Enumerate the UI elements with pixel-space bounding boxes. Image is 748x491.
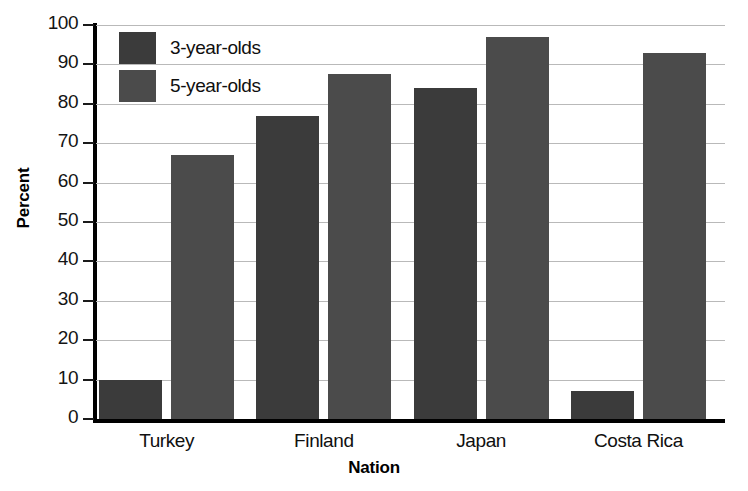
- legend-swatch: [119, 32, 156, 64]
- legend-swatch: [119, 70, 156, 102]
- bar-turkey-series-0: [99, 380, 162, 419]
- bar-finland-series-1: [328, 74, 391, 419]
- bar-japan-series-0: [414, 88, 477, 419]
- bar-japan-series-1: [486, 37, 549, 419]
- y-axis-tick-label: 70: [22, 130, 78, 152]
- y-axis-tick-label: 30: [22, 288, 78, 310]
- gridline: [96, 143, 725, 144]
- x-axis-spine: [93, 419, 725, 423]
- bar-finland-series-0: [256, 116, 319, 419]
- y-axis-tick: [83, 24, 94, 26]
- y-axis-tick: [83, 182, 94, 184]
- y-axis-tick-label: 50: [22, 209, 78, 231]
- y-axis-tick-label: 90: [22, 51, 78, 73]
- y-axis-tick-label: 0: [22, 406, 78, 428]
- y-axis-tick: [83, 260, 94, 262]
- category-label: Turkey: [87, 430, 247, 452]
- legend: 3-year-olds5-year-olds: [119, 29, 261, 105]
- bar-costa-rica-series-1: [643, 53, 706, 419]
- y-axis-tick: [83, 142, 94, 144]
- legend-item: 5-year-olds: [119, 67, 261, 105]
- category-label: Japan: [401, 430, 561, 452]
- y-axis-tick: [83, 379, 94, 381]
- y-axis-tick-label: 80: [22, 91, 78, 113]
- legend-label: 3-year-olds: [170, 37, 261, 59]
- legend-label: 5-year-olds: [170, 75, 261, 97]
- bar-turkey-series-1: [171, 155, 234, 419]
- bar-chart: Percent 0102030405060708090100 TurkeyFin…: [0, 0, 748, 491]
- y-axis-title: Percent: [14, 148, 34, 248]
- legend-item: 3-year-olds: [119, 29, 261, 67]
- y-axis-tick-label: 40: [22, 248, 78, 270]
- y-axis-tick-label: 100: [22, 12, 78, 34]
- y-axis-tick: [83, 339, 94, 341]
- x-axis-title: Nation: [0, 458, 748, 478]
- y-axis-tick: [83, 418, 94, 420]
- category-label: Finland: [244, 430, 404, 452]
- y-axis-tick: [83, 103, 94, 105]
- y-axis-tick-label: 20: [22, 327, 78, 349]
- y-axis-tick-label: 10: [22, 367, 78, 389]
- y-axis-tick: [83, 300, 94, 302]
- category-label: Costa Rica: [558, 430, 718, 452]
- y-axis-tick: [83, 63, 94, 65]
- gridline: [96, 25, 725, 26]
- y-axis-tick: [83, 221, 94, 223]
- y-axis-tick-label: 60: [22, 170, 78, 192]
- bar-costa-rica-series-0: [571, 391, 634, 419]
